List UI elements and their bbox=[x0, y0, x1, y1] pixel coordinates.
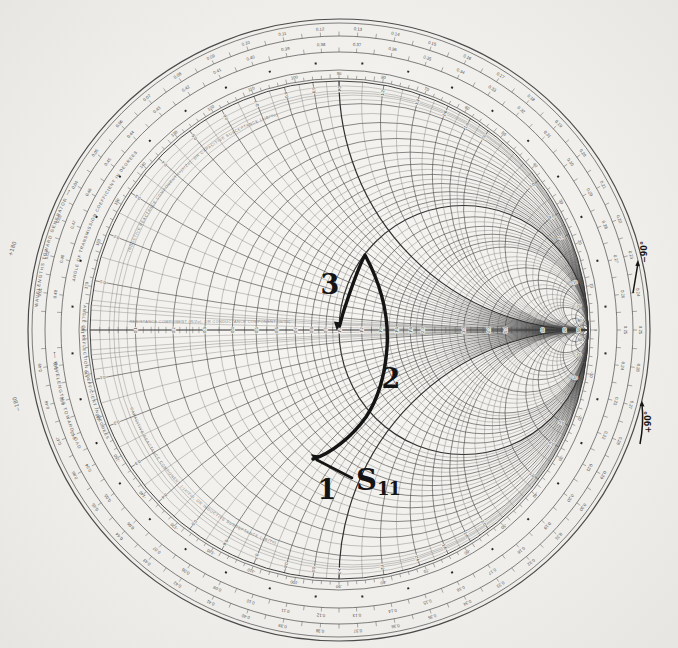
rim-reactance-label: 0.6 bbox=[222, 113, 229, 121]
scale-label: 0.08 bbox=[173, 71, 183, 80]
scale-label: 0.43 bbox=[152, 105, 162, 115]
scale-label: 0.22 bbox=[615, 214, 623, 224]
scale-tick bbox=[608, 260, 612, 261]
component-titles: RESISTANCE COMPONENT (R/Zo), OR CONDUCTA… bbox=[129, 320, 290, 324]
scale-tick bbox=[553, 531, 556, 534]
scale-tick bbox=[269, 56, 270, 60]
scale-tick bbox=[98, 155, 101, 157]
scale-tick bbox=[179, 78, 181, 81]
smith-chart: 0.010.020.030.040.050.060.070.080.090.10… bbox=[0, 0, 678, 648]
scale-label: 0.12 bbox=[316, 613, 325, 619]
scale-tick bbox=[481, 588, 483, 592]
scale-tick bbox=[597, 186, 601, 188]
curved-scale-title: CAPACITIVE REACTANCE COMPONENT (-jX/Zo),… bbox=[129, 407, 277, 545]
scale-label: 0.44 bbox=[114, 531, 124, 541]
scale-tick bbox=[612, 438, 616, 439]
scale-label: 0.17 bbox=[487, 567, 497, 576]
scale-tick bbox=[400, 83, 401, 86]
scale-tick bbox=[227, 556, 228, 559]
scale-label: 0.07 bbox=[151, 545, 161, 555]
scale-tick bbox=[203, 82, 205, 86]
scale-tick bbox=[417, 87, 418, 91]
scale-label: 0.09 bbox=[206, 53, 216, 61]
scale-label: 0.33 bbox=[495, 580, 505, 589]
scale-tick bbox=[615, 295, 619, 296]
scale-tick bbox=[92, 464, 96, 466]
axis-resistance-label: 0.6 bbox=[274, 326, 279, 332]
scale-label: 0.05 bbox=[103, 493, 112, 503]
scale-tick bbox=[565, 218, 568, 219]
scale-label: 20 bbox=[577, 239, 584, 246]
scale-tick bbox=[110, 440, 113, 441]
scale-tick bbox=[408, 572, 409, 575]
scale-tick bbox=[502, 555, 505, 559]
rim-reactance-label: 1.2 bbox=[379, 564, 385, 571]
transmission-square-tick bbox=[604, 352, 606, 354]
scale-label: 30 bbox=[558, 198, 565, 205]
scale-tick bbox=[481, 68, 483, 72]
scale-tick bbox=[195, 68, 197, 72]
scale-tick bbox=[252, 594, 253, 598]
axis-resistance-label: 2.0 bbox=[420, 326, 425, 332]
scale-label: 0.08 bbox=[180, 567, 190, 576]
axis-resistance-label: 1.2 bbox=[359, 326, 364, 332]
scale-tick bbox=[512, 89, 515, 93]
scale-tick bbox=[286, 80, 287, 84]
scale-label: 0.43 bbox=[142, 557, 152, 567]
scale-tick bbox=[548, 188, 551, 190]
scale-tick bbox=[430, 47, 431, 51]
scale-tick bbox=[189, 124, 191, 127]
scale-label: 0.47 bbox=[55, 436, 63, 446]
scale-tick bbox=[441, 67, 443, 71]
scale-tick bbox=[514, 147, 516, 149]
scale-label: -120 bbox=[205, 548, 215, 557]
scale-tick bbox=[159, 544, 162, 547]
scale-tick bbox=[156, 153, 158, 155]
scale-tick bbox=[457, 75, 459, 79]
scale-tick bbox=[529, 124, 532, 127]
scale-label: 0.36 bbox=[390, 623, 400, 630]
scale-tick bbox=[269, 572, 270, 575]
scale-tick bbox=[227, 101, 228, 104]
scale-tick bbox=[122, 126, 125, 129]
scale-tick bbox=[588, 365, 592, 366]
scale-label: 0.15 bbox=[427, 40, 437, 48]
scale-tick bbox=[487, 124, 489, 127]
scale-label: 0.38 bbox=[317, 42, 326, 48]
scale-label: 0.13 bbox=[354, 26, 363, 32]
scale-tick bbox=[90, 277, 93, 278]
scale-tick bbox=[138, 485, 141, 487]
scale-tick bbox=[103, 235, 106, 236]
scale-tick bbox=[62, 220, 66, 221]
transmission-square-tick bbox=[451, 86, 454, 89]
scale-label: 0.12 bbox=[316, 26, 325, 32]
scale-tick bbox=[179, 578, 181, 581]
scale-label: 0.04 bbox=[84, 462, 93, 472]
scale-tick bbox=[188, 92, 190, 95]
scale-tick bbox=[619, 238, 623, 239]
transmission-square-tick bbox=[225, 571, 228, 574]
scale-tick bbox=[497, 78, 499, 81]
scale-tick bbox=[542, 180, 545, 182]
scale-label: 160 bbox=[94, 238, 101, 247]
scale-tick bbox=[553, 150, 556, 153]
scale-label: 0.30 bbox=[578, 502, 587, 512]
scale-tick bbox=[70, 243, 74, 244]
trace-point-label-3: 3 bbox=[321, 271, 340, 298]
scale-tick bbox=[162, 511, 164, 513]
scale-tick bbox=[286, 576, 287, 579]
scale-tick bbox=[55, 238, 59, 239]
rim-reactance-label: 0.9 bbox=[311, 567, 317, 574]
scale-label: 0.21 bbox=[599, 180, 608, 190]
smith-chart-figure: 0.010.020.030.040.050.060.070.080.090.10… bbox=[0, 0, 678, 648]
scale-tick bbox=[612, 382, 616, 383]
scale-tick bbox=[583, 464, 587, 466]
scale-label: -20 bbox=[576, 414, 583, 422]
scale-label: 0.34 bbox=[462, 599, 472, 607]
scale-tick bbox=[394, 619, 395, 623]
scale-label: 0.27 bbox=[627, 400, 634, 410]
scale-tick bbox=[472, 114, 474, 117]
scale-tick bbox=[472, 543, 474, 547]
rim-note-bottom-right: +90° bbox=[645, 411, 653, 433]
scale-tick bbox=[574, 479, 578, 481]
